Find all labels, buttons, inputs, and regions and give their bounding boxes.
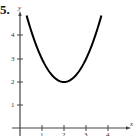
x-axis-label: x	[129, 120, 134, 128]
y-tick-label: 1	[11, 101, 15, 109]
x-tick-label: 2	[62, 131, 66, 136]
y-tick-label: 3	[11, 55, 15, 63]
y-tick-label: 2	[11, 78, 15, 86]
y-tick-label: 4	[11, 31, 15, 39]
y-axis-label: y	[17, 4, 22, 12]
x-tick-label: 1	[40, 131, 44, 136]
x-tick-label: 4	[106, 131, 110, 136]
parabola-curve	[27, 16, 102, 82]
x-tick-label: 3	[84, 131, 88, 136]
parabola-chart: y x 4 3 2 1 1 2 3 4	[0, 0, 134, 136]
